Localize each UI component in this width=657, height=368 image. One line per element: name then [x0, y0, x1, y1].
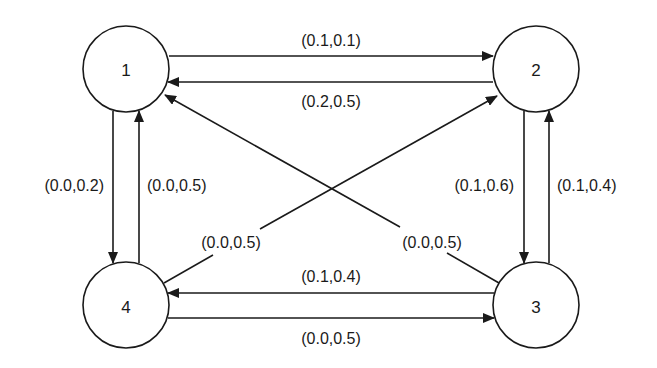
node-4-label: 4: [121, 298, 130, 317]
arrow-4-to-2: [260, 96, 497, 229]
edge-3-to-4: (0.1,0.4): [168, 268, 494, 294]
node-2-label: 2: [531, 61, 540, 80]
edge-1-to-2: (0.1,0.1): [169, 32, 493, 57]
node-1-label: 1: [121, 61, 130, 80]
arrow-3-to-1: [165, 95, 400, 227]
edge-label-2-to-1: (0.2,0.5): [301, 93, 361, 110]
edge-label-4-to-3: (0.0,0.5): [301, 330, 361, 347]
arrow-4-to-2-segment-lower: [164, 255, 213, 283]
edge-label-1-to-4: (0.0,0.2): [44, 177, 104, 194]
state-transition-diagram: (0.1,0.1) (0.2,0.5) (0.0,0.2) (0.0,0.5) …: [0, 0, 657, 368]
node-3-label: 3: [531, 298, 540, 317]
edge-label-3-to-2: (0.1,0.4): [557, 177, 617, 194]
edge-label-3-to-4: (0.1,0.4): [301, 268, 361, 285]
node-4: 4: [83, 262, 169, 348]
node-3: 3: [493, 262, 579, 348]
edge-1-to-4: (0.0,0.2): [44, 111, 113, 263]
edge-label-4-to-1: (0.0,0.5): [147, 177, 207, 194]
edge-label-2-to-3: (0.1,0.6): [454, 177, 514, 194]
edge-3-to-2: (0.1,0.4): [549, 111, 617, 263]
arrow-3-to-1-segment-lower: [447, 253, 499, 283]
edge-label-3-to-1: (0.0,0.5): [402, 234, 462, 251]
edge-label-1-to-2: (0.1,0.1): [301, 32, 361, 49]
node-2: 2: [493, 26, 579, 112]
edge-label-4-to-2: (0.0,0.5): [201, 234, 261, 251]
edge-4-to-3: (0.0,0.5): [168, 318, 494, 347]
node-1: 1: [83, 26, 169, 112]
edge-2-to-3: (0.1,0.6): [454, 111, 524, 263]
edge-4-to-2: (0.0,0.5): [164, 96, 497, 283]
edge-2-to-1: (0.2,0.5): [168, 82, 493, 110]
edge-4-to-1: (0.0,0.5): [139, 111, 207, 263]
